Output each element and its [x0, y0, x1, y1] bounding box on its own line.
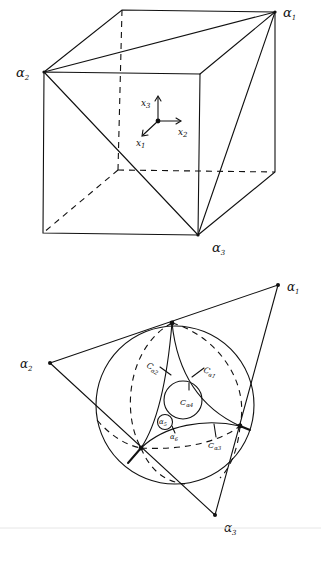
outer-triangle-edge-a2-a3: [50, 363, 215, 515]
label-alpha3: α3: [212, 240, 226, 257]
tangent-stub-left: [128, 448, 141, 463]
label-alpha3: α3: [224, 521, 237, 537]
point-sphere-top: [170, 321, 175, 326]
cube-hidden-edge-bottom-left: [43, 170, 118, 233]
point-alpha1: [276, 283, 280, 287]
vertex-alpha3-dot: [196, 233, 199, 236]
triangle-edge-a2-a1: [44, 12, 275, 72]
pointer-c-alpha3: [214, 424, 216, 437]
label-alpha2: α2: [16, 65, 30, 82]
label-c-alpha3: Cα3: [208, 441, 222, 451]
label-alpha5: α5: [159, 418, 167, 427]
label-alpha1: α1: [287, 280, 300, 296]
dashed-arc-left-equator: [97, 420, 141, 448]
outer-triangle-edge-a1-a3: [215, 285, 278, 515]
triangle-edge-a2-a3: [44, 72, 198, 235]
vertex-alpha1-dot: [273, 10, 276, 13]
arc-c-alpha3: [141, 423, 240, 448]
cube-hidden-edge-vertical: [118, 10, 122, 170]
point-sphere-left: [139, 446, 144, 451]
label-c-alpha4: Cα4: [180, 398, 194, 408]
axis-x1-line: [143, 121, 158, 135]
triangle-edge-a1-a3: [198, 12, 275, 235]
point-alpha2: [48, 361, 52, 365]
point-sphere-right: [238, 424, 243, 429]
cube-hidden-edge-bottom-back: [118, 170, 275, 172]
label-c-alpha1: Cα1: [202, 365, 218, 379]
label-alpha1: α1: [283, 5, 296, 22]
point-alpha3: [213, 513, 217, 517]
sphere-figure: α1 α2 α3 Cα2 Cα1 Cα4 Cα3 α5 α6: [20, 280, 300, 537]
label-x3: x3: [141, 98, 151, 110]
outer-triangle-edge-a2-a1: [50, 285, 278, 363]
cube-figure: α1 α2 α3 x3 x2 x1: [16, 5, 296, 257]
label-alpha6: α6: [170, 433, 179, 442]
label-x1: x1: [136, 138, 146, 150]
diagram-canvas: α1 α2 α3 x3 x2 x1: [0, 0, 321, 561]
label-x2: x2: [178, 127, 188, 139]
label-c-alpha2: Cα2: [145, 361, 162, 376]
label-alpha2: α2: [20, 357, 33, 373]
vertex-alpha2-dot: [42, 70, 45, 73]
